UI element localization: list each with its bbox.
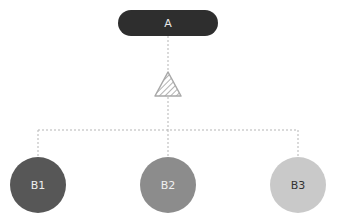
child-node-b2: B2: [140, 157, 196, 213]
triangle-icon: [155, 72, 181, 96]
child-node-b1: B1: [10, 157, 66, 213]
child-node-b3: B3: [270, 157, 326, 213]
child-node-label: B3: [291, 179, 306, 192]
child-node-label: B2: [161, 179, 176, 192]
root-node-label: A: [164, 17, 172, 30]
root-node-a: A: [118, 10, 218, 36]
child-node-label: B1: [31, 179, 46, 192]
